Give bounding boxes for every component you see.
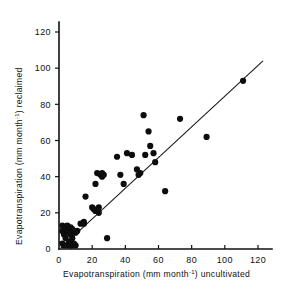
y-tick-label: 120: [35, 27, 51, 37]
data-point: [140, 112, 146, 118]
x-axis-title: Evapotranspiration (mm month-1) uncultiv…: [63, 269, 250, 279]
y-tick-label: 20: [40, 208, 51, 218]
data-point: [142, 152, 148, 158]
data-point: [145, 128, 151, 134]
data-point: [96, 210, 102, 216]
x-tick-label: 40: [120, 255, 131, 265]
data-point: [101, 172, 107, 178]
data-point: [114, 154, 120, 160]
data-point: [162, 188, 168, 194]
data-point: [81, 221, 87, 227]
data-point: [137, 170, 143, 176]
data-point: [104, 235, 110, 241]
data-point: [74, 228, 80, 234]
data-point: [129, 152, 135, 158]
data-point: [240, 78, 246, 84]
data-point: [117, 172, 123, 178]
data-point: [203, 134, 209, 140]
y-tick-label: 40: [40, 172, 51, 182]
data-point: [147, 143, 153, 149]
y-tick-label: 80: [40, 100, 51, 110]
regression-line: [61, 61, 263, 248]
y-tick-label: 60: [40, 136, 51, 146]
x-tick-label: 120: [250, 255, 266, 265]
x-tick-label: 60: [153, 255, 164, 265]
data-point: [72, 242, 78, 248]
data-point: [92, 181, 98, 187]
data-point: [82, 193, 88, 199]
x-tick-label: 80: [186, 255, 197, 265]
data-point: [69, 235, 75, 241]
y-tick-label: 100: [35, 63, 51, 73]
plot-canvas: 020406080100120020406080100120 Evapotran…: [0, 0, 296, 289]
x-tick-label: 20: [87, 255, 98, 265]
data-point: [121, 181, 127, 187]
x-tick-label: 0: [56, 255, 61, 265]
data-point: [177, 116, 183, 122]
y-tick-label: 0: [46, 244, 51, 254]
x-tick-label: 100: [217, 255, 233, 265]
data-point: [150, 150, 156, 156]
data-point: [96, 204, 102, 210]
scatter-plot-figure: 020406080100120020406080100120 Evapotran…: [0, 0, 296, 289]
axis-lines: [59, 22, 272, 249]
data-point: [152, 159, 158, 165]
y-axis-title: Evapotranspiration (mm month-1) reclaime…: [14, 67, 24, 245]
